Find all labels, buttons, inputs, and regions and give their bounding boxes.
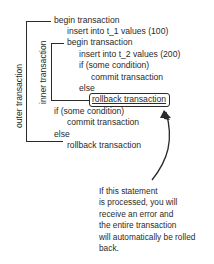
annotation-line: will automatically be rolled [99,232,195,243]
annotation-line: If this statement [99,186,195,197]
annotation-note: If this statement is processed, you will… [99,186,195,254]
annotation-line: the entire transaction [99,220,195,231]
annotation-line: is processed, you will [99,197,195,208]
annotation-line: receive an error and [99,209,195,220]
annotation-line: back. [99,243,195,254]
